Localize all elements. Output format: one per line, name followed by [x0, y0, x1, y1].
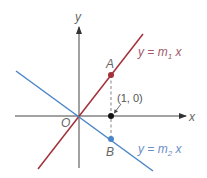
point-b-label: B: [106, 145, 114, 159]
origin-label: O: [61, 116, 70, 130]
line-m1-equation: y = m1 x: [137, 45, 182, 61]
x-axis-label: x: [188, 110, 196, 124]
point-b: [108, 136, 114, 142]
unit-point-label: (1, 0): [117, 92, 143, 104]
line-m2-equation: y = m2 x: [137, 142, 182, 158]
point-a: [108, 72, 114, 78]
unit-point-leader-arrowhead: [114, 109, 118, 113]
coordinate-diagram: y x O A B (1, 0) y = m1 x y = m2 x: [0, 0, 207, 178]
point-unit: [108, 113, 114, 119]
y-axis-label: y: [74, 10, 82, 24]
line-m2: [16, 71, 153, 171]
point-a-label: A: [105, 57, 114, 71]
